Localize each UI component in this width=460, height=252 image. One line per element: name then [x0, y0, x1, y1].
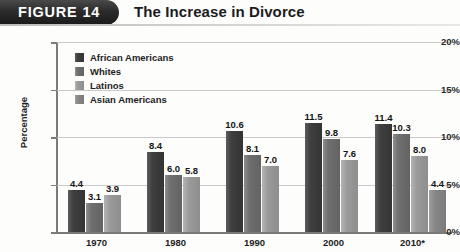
- bar[interactable]: [244, 155, 261, 232]
- legend-label: Asian Americans: [90, 94, 167, 105]
- legend-item[interactable]: Latinos: [75, 79, 174, 92]
- bar-value-label: 5.8: [175, 165, 209, 176]
- x-tick-label: 1970: [57, 237, 137, 248]
- x-tick-label: 2000: [294, 237, 374, 248]
- bar[interactable]: [375, 124, 392, 232]
- bar[interactable]: [411, 156, 428, 232]
- legend-label: Whites: [90, 66, 121, 77]
- legend-swatch: [75, 53, 84, 62]
- y-tick-mark: [51, 185, 57, 187]
- bar-value-label: 8.0: [403, 144, 437, 155]
- y-tick-label: 10%: [414, 131, 460, 142]
- legend-swatch: [75, 95, 84, 104]
- bar-value-label: 11.4: [367, 112, 401, 123]
- y-tick-label: 0%: [414, 226, 460, 237]
- y-tick-mark: [51, 232, 57, 234]
- bar[interactable]: [104, 195, 121, 232]
- legend-item[interactable]: Whites: [75, 65, 174, 78]
- legend-label: African Americans: [90, 52, 174, 63]
- x-tick-label: 2010*: [373, 237, 453, 248]
- bar-value-label: 11.5: [297, 111, 331, 122]
- y-tick-mark: [51, 90, 57, 92]
- bar-value-label: 10.6: [218, 119, 252, 130]
- bar[interactable]: [341, 160, 358, 232]
- y-tick-mark: [51, 137, 57, 139]
- bar-value-label: 8.4: [139, 140, 173, 151]
- bar-value-label: 8.1: [236, 143, 270, 154]
- x-tick-label: 1980: [136, 237, 216, 248]
- y-tick-label: 20%: [414, 36, 460, 47]
- y-tick-label: 15%: [414, 84, 460, 95]
- y-tick-mark: [51, 42, 57, 44]
- legend-item[interactable]: African Americans: [75, 51, 174, 64]
- bar-value-label: 9.8: [315, 127, 349, 138]
- bar-chart: Percentage 4.43.13.98.46.05.810.68.17.01…: [0, 25, 460, 252]
- bar-group: 10.68.17.0: [226, 42, 279, 232]
- legend-swatch: [75, 67, 84, 76]
- bar[interactable]: [262, 166, 279, 233]
- y-axis-title: Percentage: [18, 78, 29, 168]
- legend-label: Latinos: [90, 80, 124, 91]
- bar-group: 11.59.87.6: [305, 42, 358, 232]
- x-axis-line: [56, 232, 452, 234]
- figure-number-badge: FIGURE 14: [0, 0, 119, 25]
- figure-header: FIGURE 14 The Increase in Divorce: [0, 0, 460, 25]
- figure-number-label: FIGURE 14: [18, 4, 100, 20]
- bar[interactable]: [86, 203, 103, 232]
- bar-value-label: 7.6: [333, 148, 367, 159]
- bar[interactable]: [165, 175, 182, 232]
- chart-legend: African AmericansWhitesLatinosAsian Amer…: [75, 51, 174, 107]
- figure-title: The Increase in Divorce: [134, 3, 305, 20]
- x-tick-label: 1990: [215, 237, 295, 248]
- bar[interactable]: [305, 123, 322, 232]
- legend-item[interactable]: Asian Americans: [75, 93, 174, 106]
- bar-value-label: 3.9: [96, 183, 130, 194]
- bar-value-label: 4.4: [60, 178, 94, 189]
- bar[interactable]: [183, 177, 200, 232]
- y-tick-label: 5%: [414, 179, 460, 190]
- legend-swatch: [75, 81, 84, 90]
- bar-value-label: 7.0: [254, 154, 288, 165]
